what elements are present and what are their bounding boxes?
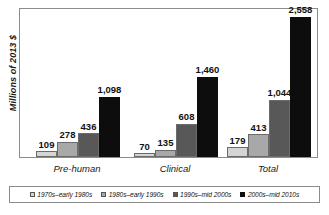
legend-swatch-icon <box>30 192 35 197</box>
bar-slot: 436 <box>78 9 99 157</box>
bar-group-bars: 701356081,460 <box>132 9 220 157</box>
bar[interactable] <box>99 97 120 157</box>
bar[interactable] <box>134 153 155 157</box>
category-label-0: Pre-human <box>32 163 122 174</box>
y-axis-title: Millions of 2013 $ <box>8 8 18 138</box>
bar[interactable] <box>78 133 99 157</box>
bar-slot: 135 <box>155 9 176 157</box>
bar-value-label: 1,460 <box>185 64 231 75</box>
legend-swatch-icon <box>173 192 178 197</box>
plot-area: 1092784361,098701356081,4601794131,0442,… <box>20 9 317 157</box>
bar-slot: 2,558 <box>290 9 311 157</box>
legend-label: 2000s–mid 2010s <box>248 191 299 198</box>
bar-slot: 70 <box>134 9 155 157</box>
legend-label: 1970s–early 1980s <box>37 191 92 198</box>
legend-item-0[interactable]: 1970s–early 1980s <box>30 191 92 198</box>
bar-group-bars: 1794131,0442,558 <box>225 9 313 157</box>
bar-group: 1092784361,098 <box>34 9 122 157</box>
bar[interactable] <box>227 147 248 157</box>
bar[interactable] <box>248 134 269 157</box>
bar-slot: 413 <box>248 9 269 157</box>
bar[interactable] <box>36 151 57 157</box>
legend-swatch-icon <box>101 192 106 197</box>
category-label-1: Clinical <box>130 163 220 174</box>
bar-group: 701356081,460 <box>132 9 220 157</box>
bar-chart: Millions of 2013 $ 1092784361,0987013560… <box>0 0 329 215</box>
category-label-2: Total <box>223 163 313 174</box>
bar-group-bars: 1092784361,098 <box>34 9 122 157</box>
bar-value-label: 2,558 <box>278 4 324 15</box>
bar[interactable] <box>269 100 290 157</box>
bar-slot: 1,098 <box>99 9 120 157</box>
bar-slot: 278 <box>57 9 78 157</box>
bar[interactable] <box>290 17 311 157</box>
legend-label: 1980s–early 1990s <box>109 191 164 198</box>
bar-slot: 179 <box>227 9 248 157</box>
bar[interactable] <box>57 142 78 157</box>
legend-item-2[interactable]: 1990s–mid 2000s <box>173 191 232 198</box>
bar-slot: 1,044 <box>269 9 290 157</box>
chart-legend: 1970s–early 1980s1980s–early 1990s1990s–… <box>9 186 320 203</box>
bar-value-label: 1,098 <box>87 84 133 95</box>
bar-group: 1794131,0442,558 <box>225 9 313 157</box>
bar-slot: 608 <box>176 9 197 157</box>
legend-swatch-icon <box>240 192 245 197</box>
bar[interactable] <box>176 124 197 157</box>
legend-label: 1990s–mid 2000s <box>180 191 231 198</box>
legend-item-3[interactable]: 2000s–mid 2010s <box>240 191 299 198</box>
bar[interactable] <box>155 150 176 157</box>
legend-item-1[interactable]: 1980s–early 1990s <box>101 191 163 198</box>
plot-frame: 1092784361,098701356081,4601794131,0442,… <box>19 8 318 158</box>
